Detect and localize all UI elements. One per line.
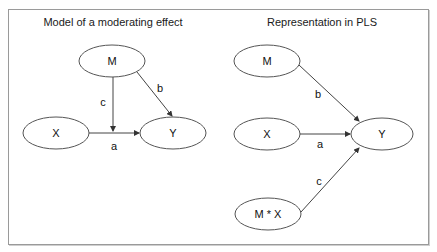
- node-x-right-label: X: [263, 128, 271, 140]
- node-y-left: Y: [140, 117, 206, 149]
- right-panel: Representation in PLS M X Y M * X b a c: [234, 16, 413, 230]
- edge-label-b-left: b: [157, 82, 163, 94]
- node-m-left-label: M: [107, 55, 116, 67]
- edge-m-to-y-left: [137, 72, 172, 116]
- edge-label-c-right: c: [316, 175, 322, 187]
- node-mx-right: M * X: [235, 198, 301, 230]
- edge-label-b-right: b: [315, 88, 321, 100]
- node-y-right: Y: [351, 118, 413, 150]
- edge-m-to-y-right: [299, 65, 359, 121]
- node-m-right-label: M: [262, 55, 271, 67]
- node-x-left-label: X: [52, 127, 60, 139]
- edge-label-a-left: a: [111, 140, 118, 152]
- edge-label-c-left: c: [100, 96, 106, 108]
- edge-label-a-right: a: [317, 138, 324, 150]
- right-panel-title: Representation in PLS: [267, 16, 377, 28]
- node-y-left-label: Y: [169, 127, 177, 139]
- edge-mx-to-y-right: [301, 148, 359, 212]
- node-m-left: M: [79, 45, 145, 77]
- node-y-right-label: Y: [378, 128, 386, 140]
- node-x-right: X: [234, 118, 300, 150]
- node-m-right: M: [234, 45, 300, 77]
- diagram-canvas: Model of a moderating effect M X Y a c b…: [0, 0, 437, 252]
- left-panel: Model of a moderating effect M X Y a c b: [23, 16, 206, 152]
- node-x-left: X: [23, 117, 89, 149]
- left-panel-title: Model of a moderating effect: [43, 16, 182, 28]
- node-mx-right-label: M * X: [255, 208, 283, 220]
